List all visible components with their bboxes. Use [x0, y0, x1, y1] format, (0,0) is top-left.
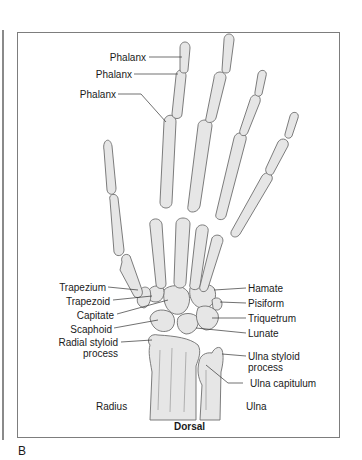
label-phalanx-distal: Phalanx	[98, 52, 146, 63]
label-scaphoid: Scaphoid	[46, 324, 112, 335]
label-ulna-capitulum: Ulna capitulum	[250, 378, 316, 389]
label-lunate: Lunate	[248, 328, 279, 339]
label-capitate: Capitate	[48, 310, 114, 321]
ring-distal-phalanx	[255, 70, 266, 96]
panel-letter: B	[18, 444, 26, 458]
ulna-bone	[198, 347, 223, 420]
pisiform-bone	[212, 298, 222, 310]
label-triquetrum: Triquetrum	[248, 313, 296, 324]
index-middle-phalanx	[172, 70, 186, 119]
index-proximal-phalanx	[160, 115, 176, 208]
lunate-bone	[177, 314, 198, 335]
label-ulna-styloid-line2: process	[248, 362, 300, 373]
little-middle-phalanx	[266, 139, 289, 175]
label-ulna-styloid-line1: Ulna styloid	[248, 351, 300, 362]
middle-middle-phalanx	[206, 72, 226, 123]
label-radius: Radius	[96, 401, 127, 412]
label-trapezium: Trapezium	[40, 282, 106, 293]
label-phalanx-proximal: Phalanx	[68, 89, 116, 100]
thumb-metacarpal	[120, 254, 142, 297]
middle-distal-phalanx	[222, 34, 234, 73]
index-metacarpal	[150, 219, 166, 289]
label-radial-styloid-line2: process	[40, 348, 118, 359]
middle-metacarpal	[174, 218, 190, 288]
label-trapezoid: Trapezoid	[44, 296, 110, 307]
little-proximal-phalanx	[231, 173, 272, 237]
ring-proximal-phalanx	[216, 133, 246, 220]
label-radial-styloid-process: Radial styloid process	[40, 337, 118, 359]
label-phalanx-middle: Phalanx	[84, 69, 132, 80]
ring-middle-phalanx	[240, 95, 261, 136]
middle-proximal-phalanx	[188, 120, 212, 212]
little-distal-phalanx	[285, 112, 298, 138]
thumb-distal-phalanx	[104, 140, 116, 194]
thumb-proximal-phalanx	[110, 194, 124, 255]
index-distal-phalanx	[180, 42, 190, 73]
label-ulna: Ulna	[246, 401, 267, 412]
hand-skeleton-illustration	[0, 0, 362, 460]
view-caption: Dorsal	[174, 421, 205, 432]
radius-bone	[148, 335, 199, 420]
label-ulna-styloid-process: Ulna styloid process	[248, 351, 300, 373]
label-hamate: Hamate	[248, 283, 283, 294]
label-pisiform: Pisiform	[248, 298, 284, 309]
label-radial-styloid-line1: Radial styloid	[40, 337, 118, 348]
